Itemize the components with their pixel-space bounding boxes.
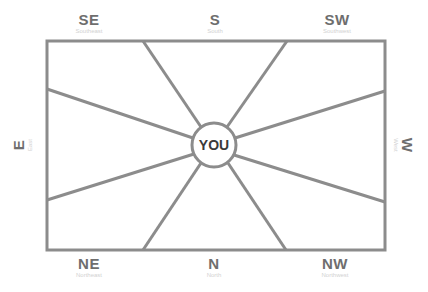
direction-label-west: W West <box>385 105 415 185</box>
direction-label-south: S South <box>175 12 255 35</box>
direction-full: South <box>175 28 255 35</box>
direction-label-southwest: SW Southwest <box>297 12 377 35</box>
direction-full: Northeast <box>49 272 129 279</box>
ray-left-upper <box>47 89 193 138</box>
direction-abbr: W <box>399 105 415 185</box>
direction-abbr: SW <box>297 12 377 28</box>
direction-full: Southeast <box>49 28 129 35</box>
direction-full: North <box>174 272 254 279</box>
direction-full: West <box>392 105 399 185</box>
ray-top-right <box>227 41 287 127</box>
direction-abbr: N <box>174 256 254 272</box>
ray-bottom-left <box>143 163 201 250</box>
direction-full: East <box>27 105 34 185</box>
ray-top-left <box>143 41 201 127</box>
direction-label-northwest: NW Northwest <box>295 256 375 279</box>
direction-abbr: S <box>175 12 255 28</box>
ray-left-lower <box>47 154 194 200</box>
direction-abbr: NW <box>295 256 375 272</box>
direction-label-northeast: NE Northeast <box>49 256 129 279</box>
ray-right-lower <box>234 155 385 202</box>
direction-abbr: SE <box>49 12 129 28</box>
ray-right-upper <box>235 91 385 138</box>
direction-full: Southwest <box>297 28 377 35</box>
ray-bottom-right <box>228 163 286 250</box>
direction-label-southeast: SE Southeast <box>49 12 129 35</box>
direction-label-east: E East <box>11 105 41 185</box>
direction-abbr: NE <box>49 256 129 272</box>
direction-full: Northwest <box>295 272 375 279</box>
direction-label-north: N North <box>174 256 254 279</box>
center-label: YOU <box>192 137 236 153</box>
direction-abbr: E <box>11 105 27 185</box>
